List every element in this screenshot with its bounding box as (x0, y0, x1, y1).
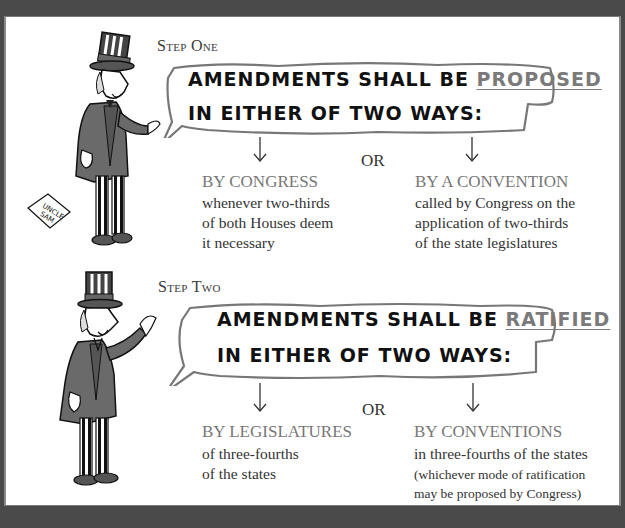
step-two-label: Step Two (158, 278, 221, 296)
bubble-line-2-step-one: IN EITHER OF TWO WAYS: (188, 102, 483, 124)
step-one-label: Step One (157, 37, 218, 55)
option-by-conventions-description: in three-fourths of the states (414, 444, 588, 464)
option-by-conventions-note: (whichever mode of ratification may be p… (414, 465, 585, 503)
uncle-sam-figure-step-two (40, 266, 170, 498)
bubble-line-1-step-two: AMENDMENTS SHALL BE RATIFIED (217, 308, 610, 330)
diagram-frame: UNCLE SAM Step One AMENDMENTS SHALL BE P… (0, 0, 625, 528)
bubble-line-2-step-two: IN EITHER OF TWO WAYS: (217, 344, 512, 366)
option-by-conventions-title: BY CONVENTIONS (414, 422, 562, 442)
arrow-down-icon (252, 137, 268, 163)
title-bar (0, 0, 625, 15)
option-by-congress-description: whenever two-thirds of both Houses deem … (202, 193, 333, 253)
option-by-convention-description: called by Congress on the application of… (415, 193, 575, 253)
arrow-down-icon (252, 383, 268, 413)
option-by-convention-title: BY A CONVENTION (415, 172, 568, 192)
option-by-legislatures-title: BY LEGISLATURES (202, 422, 352, 442)
option-by-congress-title: BY CONGRESS (202, 172, 318, 192)
option-by-legislatures-description: of three-fourths of the states (202, 444, 299, 484)
or-connector-step-one: OR (361, 151, 385, 171)
arrow-down-icon (465, 383, 481, 413)
or-connector-step-two: OR (362, 400, 386, 420)
arrow-down-icon (464, 137, 480, 163)
bubble-line-1-step-one: AMENDMENTS SHALL BE PROPOSED (188, 68, 602, 90)
footer-bar (0, 507, 625, 528)
uncle-sam-sign: UNCLE SAM (24, 190, 74, 230)
proposed-keyword: PROPOSED (477, 68, 602, 90)
ratified-keyword: RATIFIED (506, 308, 611, 330)
